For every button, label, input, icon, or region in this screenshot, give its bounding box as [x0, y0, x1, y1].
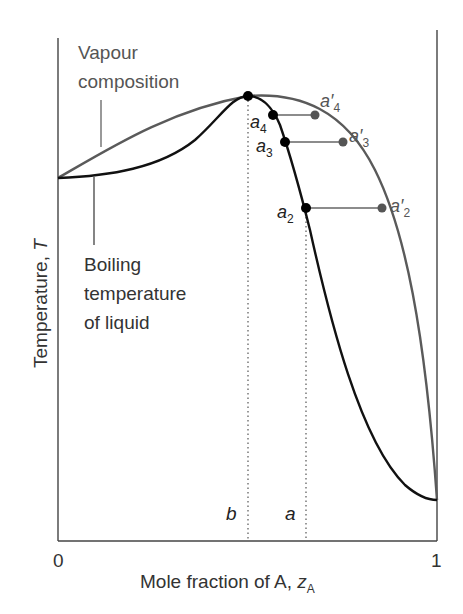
point-a2 [301, 203, 311, 213]
label-a2: a2 [277, 202, 294, 226]
x-axis-label: Mole fraction of A, zA [140, 571, 315, 596]
y-axis-label: Temperature, T [30, 238, 51, 368]
label-b: b [226, 503, 237, 524]
phase-diagram: Vapour composition Boiling temperature o… [0, 0, 463, 614]
label-a3-prime: a′3 [349, 126, 369, 150]
point-a3 [280, 137, 290, 147]
x-tick-1: 1 [431, 550, 442, 571]
point-a3-prime [339, 138, 348, 147]
azeotrope-point [243, 91, 253, 101]
vapour-label-line2: composition [78, 71, 179, 92]
point-a4 [268, 110, 278, 120]
liquid-label-line3: of liquid [84, 312, 150, 333]
liquid-label-line2: temperature [84, 283, 186, 304]
point-a2-prime [378, 204, 387, 213]
point-a4-prime [311, 111, 320, 120]
label-a3: a3 [256, 136, 273, 160]
vapour-label-line1: Vapour [78, 42, 139, 63]
label-a: a [285, 503, 296, 524]
x-tick-0: 0 [53, 550, 64, 571]
liquid-label-line1: Boiling [84, 254, 141, 275]
label-a4: a4 [250, 112, 267, 136]
